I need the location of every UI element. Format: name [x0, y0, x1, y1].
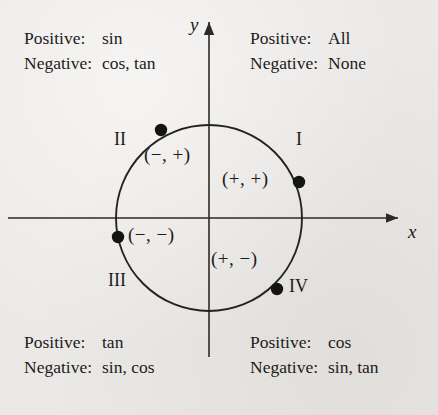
note-quadrant-2-negative-row: Negative:cos, tan — [24, 51, 155, 76]
positive-label: Positive: — [24, 330, 102, 355]
x-axis-label: x — [408, 221, 416, 243]
note-quadrant-3: Positive:tan Negative:sin, cos — [24, 330, 155, 380]
point-quadrant-2 — [155, 124, 167, 136]
unit-circle-quadrant-diagram: y x II I III IV (−, +) (+, +) (−, −) (+,… — [0, 0, 438, 415]
point-quadrant-3 — [112, 231, 124, 243]
quadrant-numeral-1: I — [296, 129, 302, 150]
note-quadrant-4-negative-value: sin, tan — [328, 355, 379, 380]
note-quadrant-4: Positive:cos Negative:sin, tan — [250, 330, 379, 380]
negative-label: Negative: — [250, 355, 328, 380]
positive-label: Positive: — [24, 26, 102, 51]
note-quadrant-2: Positive:sin Negative:cos, tan — [24, 26, 155, 76]
sign-pair-quadrant-3: (−, −) — [128, 224, 175, 246]
note-quadrant-1-negative-row: Negative:None — [250, 51, 366, 76]
positive-label: Positive: — [250, 330, 328, 355]
note-quadrant-3-negative-value: sin, cos — [102, 355, 155, 380]
positive-label: Positive: — [250, 26, 328, 51]
note-quadrant-1-positive-row: Positive:All — [250, 26, 366, 51]
y-axis-arrowhead — [204, 22, 214, 35]
note-quadrant-2-negative-value: cos, tan — [102, 51, 155, 76]
note-quadrant-1-positive-value: All — [328, 26, 350, 51]
quadrant-numeral-3: III — [108, 270, 126, 291]
sign-pair-quadrant-1: (+, +) — [222, 168, 269, 190]
y-axis-label: y — [190, 14, 198, 36]
note-quadrant-3-positive-row: Positive:tan — [24, 330, 155, 355]
negative-label: Negative: — [24, 51, 102, 76]
negative-label: Negative: — [24, 355, 102, 380]
note-quadrant-4-positive-value: cos — [328, 330, 351, 355]
quadrant-numeral-4: IV — [289, 276, 308, 297]
x-axis-arrowhead — [386, 213, 398, 223]
point-quadrant-4 — [271, 283, 283, 295]
note-quadrant-2-positive-row: Positive:sin — [24, 26, 155, 51]
note-quadrant-3-positive-value: tan — [102, 330, 123, 355]
note-quadrant-4-positive-row: Positive:cos — [250, 330, 379, 355]
quadrant-numeral-2: II — [114, 129, 126, 150]
note-quadrant-3-negative-row: Negative:sin, cos — [24, 355, 155, 380]
note-quadrant-2-positive-value: sin — [102, 26, 122, 51]
negative-label: Negative: — [250, 51, 328, 76]
sign-pair-quadrant-2: (−, +) — [144, 144, 191, 166]
point-quadrant-1 — [293, 176, 305, 188]
note-quadrant-1-negative-value: None — [328, 51, 366, 76]
note-quadrant-1: Positive:All Negative:None — [250, 26, 366, 76]
sign-pair-quadrant-4: (+, −) — [211, 248, 258, 270]
note-quadrant-4-negative-row: Negative:sin, tan — [250, 355, 379, 380]
